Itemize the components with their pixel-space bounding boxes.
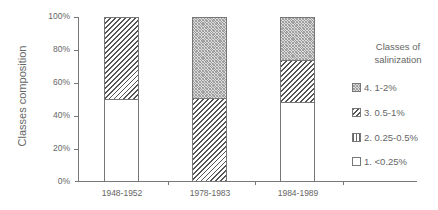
legend-label: 1. <0.25% (364, 156, 407, 167)
y-tick-mark (74, 149, 78, 150)
legend-title-line2: salinization (358, 53, 438, 66)
y-tick-80: 80% (30, 44, 70, 54)
y-tick-100: 100% (30, 11, 70, 21)
legend-item-class-2: 2. 0.25-0.5% (352, 132, 418, 143)
y-tick-mark (74, 83, 78, 84)
x-tick-mark (255, 181, 256, 185)
legend-label: 3. 0.5-1% (364, 107, 405, 118)
segment-class-3 (104, 17, 139, 100)
hatched-swatch-icon (352, 108, 361, 117)
y-tick-mark (74, 17, 78, 18)
y-tick-60: 60% (30, 77, 70, 87)
legend-title: Classes of salinization (358, 40, 438, 66)
white-swatch-icon (352, 157, 361, 166)
legend-title-line1: Classes of (358, 40, 438, 53)
legend-item-class-4: 4. 1-2% (352, 82, 397, 93)
legend-item-class-3: 3. 0.5-1% (352, 107, 405, 118)
segment-class-4 (280, 17, 315, 61)
y-axis (78, 17, 79, 182)
y-tick-mark (74, 116, 78, 117)
dotted-swatch-icon (352, 83, 361, 92)
vertical-lines-swatch-icon (352, 133, 361, 142)
y-axis-label: Classes composition (16, 36, 28, 156)
segment-class-3 (280, 60, 315, 103)
legend-label: 2. 0.25-0.5% (364, 132, 418, 143)
legend-label: 4. 1-2% (364, 82, 397, 93)
y-tick-20: 20% (30, 143, 70, 153)
legend-item-class-1: 1. <0.25% (352, 156, 407, 167)
x-category-1984-1989: 1984-1989 (263, 188, 333, 198)
bar-1948-1952 (104, 17, 139, 182)
segment-class-3 (192, 98, 227, 182)
segment-class-4 (192, 17, 227, 99)
y-tick-mark (74, 50, 78, 51)
segment-class-1 (280, 102, 315, 182)
bar-1984-1989 (280, 17, 315, 182)
x-tick-mark (343, 181, 344, 185)
segment-class-1 (104, 99, 139, 182)
x-category-1978-1983: 1978-1983 (175, 188, 245, 198)
y-tick-40: 40% (30, 110, 70, 120)
x-tick-mark (168, 181, 169, 185)
x-category-1948-1952: 1948-1952 (87, 188, 157, 198)
y-tick-0: 0% (30, 176, 70, 186)
bar-1978-1983 (192, 17, 227, 182)
